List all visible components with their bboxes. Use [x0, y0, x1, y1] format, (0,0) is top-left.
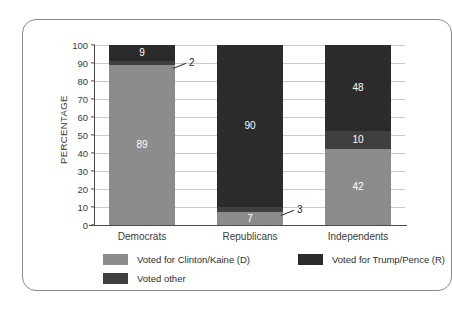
y-tick-label: 80: [64, 76, 88, 87]
legend-label-clinton: Voted for Clinton/Kaine (D): [137, 254, 250, 265]
bar-segment-value: 7: [247, 214, 253, 224]
y-tick-mark: [91, 170, 95, 171]
y-tick-mark: [91, 62, 95, 63]
y-tick-mark: [91, 224, 95, 225]
bar-segment[interactable]: 42: [325, 149, 391, 225]
legend-swatch-trump-icon: [298, 254, 323, 265]
legend-label-other: Voted other: [137, 273, 186, 284]
bar-segment-value: 89: [136, 140, 147, 150]
bar-segment[interactable]: 10: [325, 131, 391, 149]
y-tick-mark: [91, 98, 95, 99]
y-tick-mark: [91, 206, 95, 207]
callout-value: 3: [297, 204, 303, 215]
legend-item-trump: Voted for Trump/Pence (R): [298, 254, 445, 265]
legend-row-1: Voted for Clinton/Kaine (D) Voted for Tr…: [103, 250, 403, 269]
y-tick-label: 0: [64, 220, 88, 231]
legend-row-2: Voted other: [103, 269, 403, 288]
bar-segment[interactable]: 48: [325, 45, 391, 131]
y-tick-label: 70: [64, 94, 88, 105]
y-tick-label: 90: [64, 58, 88, 69]
bar-segment[interactable]: 7: [217, 212, 283, 225]
legend-swatch-other-icon: [103, 273, 128, 284]
y-tick-mark: [91, 116, 95, 117]
x-tick-label: Republicans: [190, 231, 310, 242]
y-tick-label: 50: [64, 130, 88, 141]
plot-area: 0102030405060708090100 98929073481042 De…: [95, 45, 405, 225]
legend-item-clinton: Voted for Clinton/Kaine (D): [103, 254, 250, 265]
bar-segment[interactable]: 89: [109, 65, 175, 225]
bar-segment-value: 10: [352, 135, 363, 145]
legend-swatch-clinton-icon: [103, 254, 128, 265]
bar-segment-value: 90: [244, 121, 255, 131]
y-tick-mark: [91, 188, 95, 189]
x-axis-line: [89, 225, 407, 226]
y-tick-label: 10: [64, 202, 88, 213]
bar-republicans[interactable]: 907: [217, 45, 283, 225]
x-tick-label: Independents: [298, 231, 418, 242]
bar-segment-value: 48: [352, 83, 363, 93]
y-tick-label: 40: [64, 148, 88, 159]
legend-label-trump: Voted for Trump/Pence (R): [332, 254, 445, 265]
y-tick-mark: [91, 44, 95, 45]
bar-segment-value: 42: [352, 182, 363, 192]
bar-independents[interactable]: 481042: [325, 45, 391, 225]
y-tick-label: 100: [64, 40, 88, 51]
bar-segment[interactable]: 9: [109, 45, 175, 61]
legend-item-other: Voted other: [103, 273, 186, 284]
bar-segment-value: 9: [139, 48, 145, 58]
bar-segment[interactable]: 90: [217, 45, 283, 207]
y-tick-label: 60: [64, 112, 88, 123]
x-tick-label: Democrats: [82, 231, 202, 242]
bar-democrats[interactable]: 989: [109, 45, 175, 225]
chart-legend: Voted for Clinton/Kaine (D) Voted for Tr…: [103, 250, 403, 288]
y-tick-mark: [91, 134, 95, 135]
y-tick-mark: [91, 152, 95, 153]
callout-value: 2: [189, 57, 195, 68]
y-tick-mark: [91, 80, 95, 81]
y-tick-label: 30: [64, 166, 88, 177]
y-tick-label: 20: [64, 184, 88, 195]
